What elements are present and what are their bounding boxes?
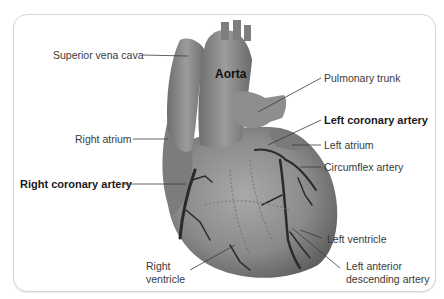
aortic-branch <box>221 22 229 40</box>
label-circumflex-artery: Circumflex artery <box>324 161 403 173</box>
label-lad-line1: Left anterior <box>346 260 402 272</box>
label-right-ventricle-line1: Right <box>146 260 171 272</box>
label-right-ventricle-line2: ventricle <box>146 273 185 285</box>
label-superior-vena-cava: Superior vena cava <box>53 49 143 61</box>
label-left-coronary-artery: Left coronary artery <box>324 114 428 126</box>
label-right-coronary-artery: Right coronary artery <box>20 178 132 190</box>
heart-illustration <box>0 0 444 299</box>
label-left-atrium: Left atrium <box>324 139 374 151</box>
label-lad-line2: descending artery <box>346 273 429 285</box>
ventricles <box>167 127 337 278</box>
label-left-ventricle: Left ventricle <box>327 233 387 245</box>
aortic-branch <box>233 20 241 40</box>
label-pulmonary-trunk: Pulmonary trunk <box>324 72 400 84</box>
label-aorta: Aorta <box>215 67 246 81</box>
leader-pulmonary-trunk <box>258 78 321 112</box>
label-right-atrium: Right atrium <box>75 133 132 145</box>
aortic-branch <box>244 25 251 41</box>
pulmonary-trunk <box>232 91 286 128</box>
